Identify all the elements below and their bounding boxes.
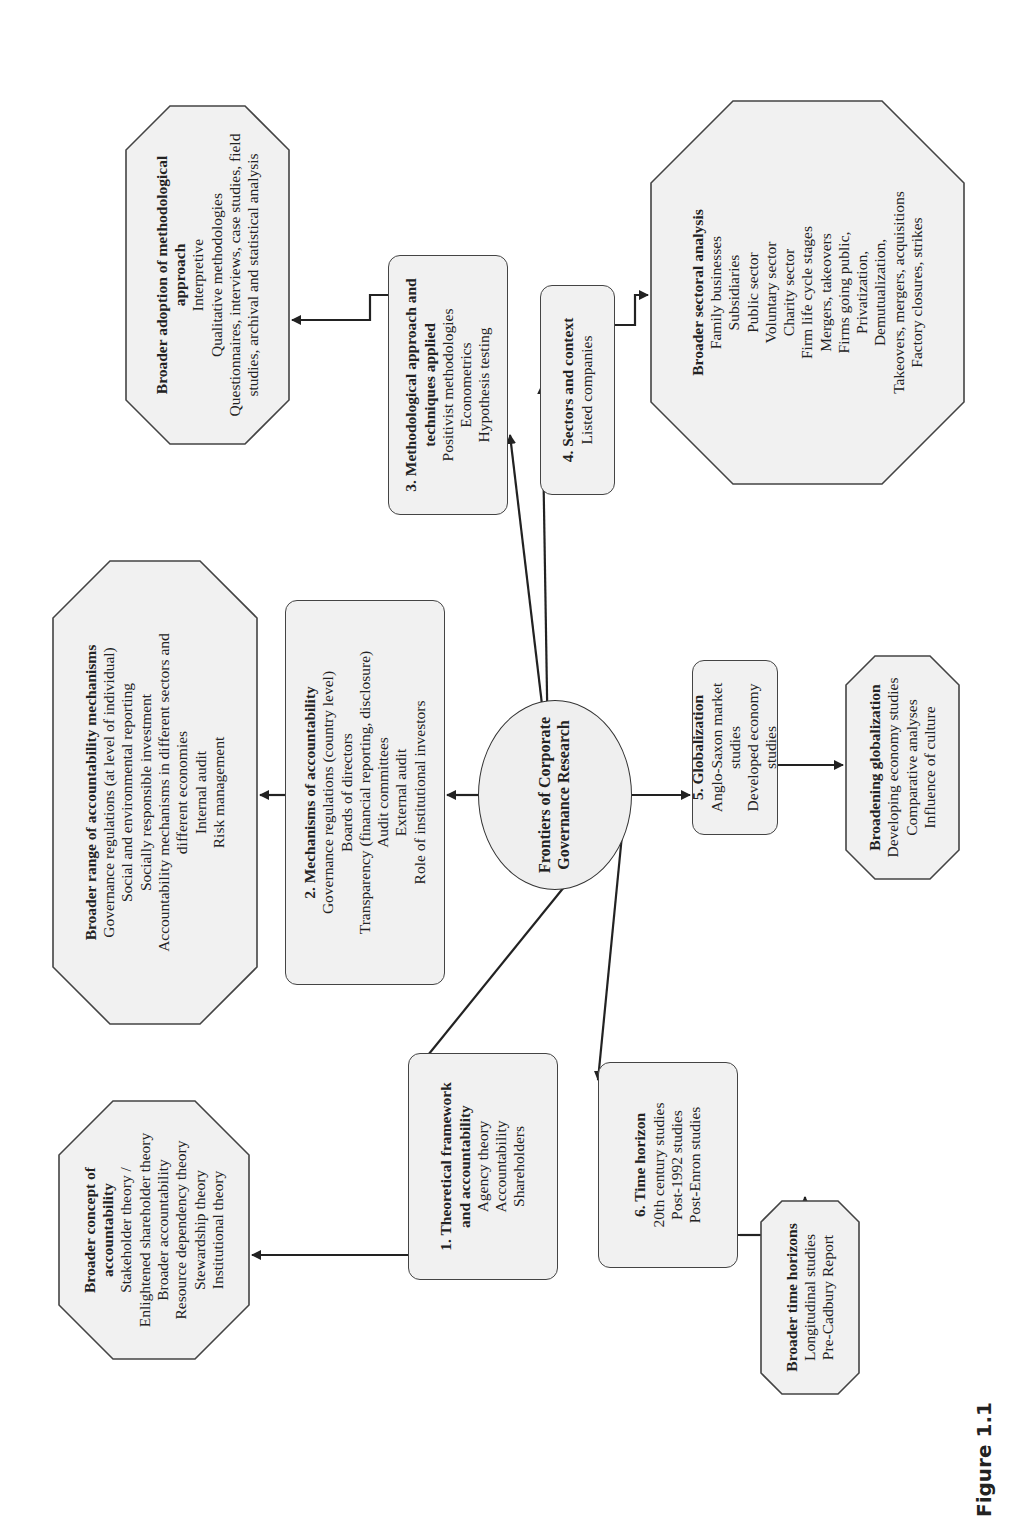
node-globalization: 5. Globalization Anglo-Saxon market stud… bbox=[692, 660, 778, 835]
broader-item: Family businesses bbox=[707, 236, 725, 349]
broader-item: Governance regulations (at level of indi… bbox=[100, 647, 118, 938]
central-topic-ellipse: Frontiers of Corporate Governance Resear… bbox=[478, 700, 632, 890]
broader-item: Developing economy studies bbox=[884, 678, 902, 858]
node-theoretical-framework: 1. Theoretical framework and accountabil… bbox=[408, 1053, 558, 1280]
broader-item: Pre-Cadbury Report bbox=[819, 1235, 837, 1360]
broader-item: Broader accountability bbox=[154, 1159, 172, 1301]
node-item: Hypothesis testing bbox=[475, 328, 493, 443]
broader-item: Influence of culture bbox=[921, 706, 939, 828]
node-item: External audit bbox=[392, 749, 410, 836]
broader-title: Broader concept of accountability bbox=[81, 1160, 118, 1300]
broader-item: Internal audit bbox=[192, 751, 210, 834]
node-mechanisms-accountability: 2. Mechanisms of accountability Governan… bbox=[285, 600, 445, 985]
broader-sectoral-analysis: Broader sectoral analysis Family busines… bbox=[650, 100, 965, 485]
node-item: Agency theory bbox=[474, 1121, 492, 1213]
node-item: Shareholders bbox=[510, 1126, 528, 1207]
node-item: Boards of directors bbox=[338, 733, 356, 852]
node-item: Role of institutional investors bbox=[411, 701, 429, 885]
central-title-line2: Governance Research bbox=[555, 720, 574, 869]
broader-item: Voluntary sector bbox=[762, 242, 780, 344]
broader-item: different economies bbox=[173, 731, 191, 854]
broader-item: Risk management bbox=[210, 737, 228, 849]
broader-item: Social and environmental reporting bbox=[118, 683, 136, 902]
node-title: 2. Mechanisms of accountability bbox=[301, 686, 319, 899]
node-title: 1. Theoretical framework and accountabil… bbox=[437, 1072, 474, 1262]
node-title: 6. Time horizon bbox=[631, 1113, 649, 1217]
broader-concept-accountability: Broader concept of accountability Stakeh… bbox=[58, 1100, 250, 1360]
node-item: Accountability bbox=[492, 1120, 510, 1212]
node-methodological-approach: 3. Methodological approach and technique… bbox=[388, 255, 508, 515]
node-title: 3. Methodological approach and technique… bbox=[402, 270, 439, 500]
node-item: Developed economy studies bbox=[744, 661, 781, 834]
broadening-globalization: Broadening globalization Developing econ… bbox=[845, 655, 960, 880]
node-item: Listed companies bbox=[578, 336, 596, 445]
node-time-horizon: 6. Time horizon 20th century studies Pos… bbox=[598, 1062, 738, 1268]
node-item: Audit committees bbox=[374, 737, 392, 848]
broader-item: Resource dependency theory bbox=[172, 1140, 190, 1319]
node-item: Econometrics bbox=[457, 342, 475, 427]
broader-title: Broader sectoral analysis bbox=[689, 209, 707, 375]
broader-item: Enlightened shareholder theory bbox=[136, 1133, 154, 1328]
broader-title: Broadening globalization bbox=[866, 684, 884, 850]
node-sectors-context: 4. Sectors and context Listed companies bbox=[540, 285, 615, 495]
broader-item: Qualitative methodologies bbox=[208, 193, 226, 357]
node-title: 4. Sectors and context bbox=[559, 318, 577, 463]
broader-methodological-approach: Broader adoption of methodological appro… bbox=[125, 105, 290, 445]
broader-item: Socially responsible investment bbox=[137, 694, 155, 891]
broader-time-horizons: Broader time horizons Longitudinal studi… bbox=[760, 1200, 860, 1395]
broader-item: Mergers, takeovers bbox=[817, 233, 835, 352]
node-item: 20th century studies bbox=[650, 1103, 668, 1228]
broader-title: Broader range of accountability mechanis… bbox=[82, 645, 100, 941]
broader-title: Broader adoption of methodological appro… bbox=[153, 145, 190, 405]
broader-item: Subsidiaries bbox=[725, 255, 743, 331]
broader-item: Charity sector bbox=[780, 249, 798, 336]
figure-label: Figure 1.1 bbox=[972, 1402, 996, 1517]
broader-item: Firm life cycle stages bbox=[798, 226, 816, 359]
node-item: Positivist methodologies bbox=[439, 309, 457, 462]
node-title: 5. Globalization bbox=[689, 695, 707, 800]
node-item: Post-1992 studies bbox=[668, 1110, 686, 1220]
broader-item: Longitudinal studies bbox=[801, 1234, 819, 1361]
node-item: Post-Enron studies bbox=[686, 1107, 704, 1224]
broader-item: Stakeholder theory / bbox=[117, 1167, 135, 1293]
node-item: Governance regulations (country level) bbox=[319, 671, 337, 914]
broader-item: Public sector bbox=[744, 252, 762, 333]
broader-title: Broader time horizons bbox=[783, 1223, 801, 1371]
broader-item: Demutualization, bbox=[871, 239, 889, 346]
broader-item: Firms going public, bbox=[835, 232, 853, 354]
broader-item: Privatization, bbox=[853, 251, 871, 334]
diagram-canvas: Frontiers of Corporate Governance Resear… bbox=[0, 0, 1012, 1535]
node-item: Transparency (financial reporting, discl… bbox=[356, 651, 374, 935]
broader-item: Interpretive bbox=[189, 239, 207, 311]
broader-item: Accountability mechanisms in different s… bbox=[155, 633, 173, 952]
broader-item: Comparative analyses bbox=[903, 699, 921, 835]
broader-item: Institutional theory bbox=[209, 1171, 227, 1289]
central-title-line1: Frontiers of Corporate bbox=[536, 717, 555, 873]
broader-range-accountability-mechanisms: Broader range of accountability mechanis… bbox=[52, 560, 258, 1025]
broader-item: Questionnaires, interviews, case studies… bbox=[226, 134, 244, 417]
broader-item: Takeovers, mergers, acquisitions bbox=[890, 191, 908, 394]
broader-item: Factory closures, strikes bbox=[908, 217, 926, 367]
broader-item: Stewardship theory bbox=[191, 1170, 209, 1290]
node-item: Anglo-Saxon market studies bbox=[708, 661, 745, 834]
broader-item: studies, archival and statistical analys… bbox=[244, 153, 262, 396]
